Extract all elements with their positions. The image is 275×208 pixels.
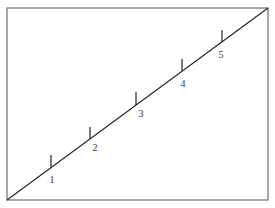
tick-group-1: 1 — [50, 155, 55, 185]
tick-group-5: 5 — [219, 30, 224, 60]
diagram-canvas: 1 2 3 4 5 — [0, 0, 275, 208]
tick-group-3: 3 — [136, 92, 144, 119]
tick-label: 3 — [139, 108, 144, 119]
tick-label: 2 — [93, 142, 98, 153]
tick-label: 1 — [50, 174, 55, 185]
tick-label: 4 — [181, 78, 186, 89]
diagonal-line — [7, 8, 268, 200]
tick-group-2: 2 — [90, 127, 98, 153]
tick-label: 5 — [219, 49, 224, 60]
tick-group-4: 4 — [181, 59, 186, 89]
